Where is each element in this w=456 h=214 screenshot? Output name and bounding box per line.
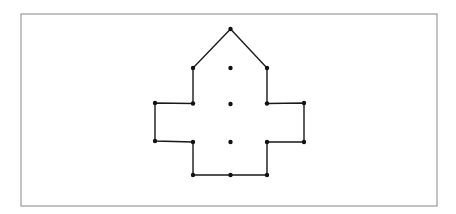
vertex-dot-center-middle — [228, 102, 232, 106]
figure-svg — [0, 0, 456, 214]
vertex-dot-right-arm-bottom-outer — [302, 140, 306, 144]
vertex-dot-left-arm-bottom-outer — [153, 139, 157, 143]
vertex-dot-left-body-lower — [191, 140, 195, 144]
vertex-dot-right-base — [265, 173, 269, 177]
vertex-dot-right-eave — [265, 66, 269, 70]
vertex-dot-left-eave — [191, 66, 195, 70]
vertex-dot-center-lower — [228, 140, 232, 144]
vertex-dot-right-body-upper — [265, 101, 269, 105]
vertex-dot-right-arm-top-outer — [302, 101, 306, 105]
vertex-dot-center-upper — [228, 66, 232, 70]
vertex-dot-left-arm-top-outer — [153, 101, 157, 105]
drawing-canvas — [0, 0, 456, 214]
vertex-dot-center-base — [228, 173, 232, 177]
vertex-dot-left-body-upper — [191, 101, 195, 105]
vertex-dot-apex — [228, 27, 232, 31]
vertex-dot-left-base — [191, 173, 195, 177]
vertex-dot-right-body-lower — [265, 140, 269, 144]
